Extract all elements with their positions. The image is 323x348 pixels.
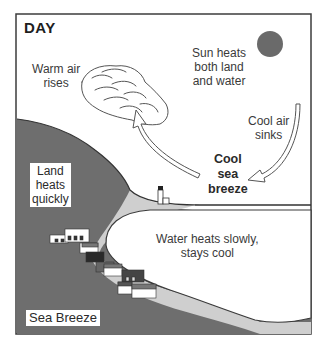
warm-air-label: Warm air rises — [32, 62, 80, 90]
water-heats-label: Water heats slowly, stays cool — [156, 232, 259, 260]
cool-air-sinks-label: Cool air sinks — [248, 114, 289, 142]
cool-sea-breeze-label: Cool sea breeze — [208, 152, 248, 197]
sun-icon — [257, 31, 283, 57]
caption-label: Sea Breeze — [26, 310, 100, 326]
diagram-title: DAY — [24, 19, 56, 36]
land-heats-label: Land heats quickly — [30, 163, 71, 207]
sun-heats-label: Sun heats both land and water — [192, 46, 246, 88]
